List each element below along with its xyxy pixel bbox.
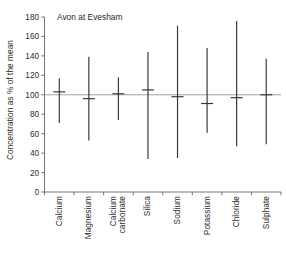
axis-group: [45, 17, 282, 195]
range-marker: [112, 77, 124, 120]
y-axis-tick-label: 180: [25, 13, 39, 22]
y-axis-tick-label: 120: [25, 71, 39, 80]
range-marker: [53, 78, 65, 123]
range-marker: [260, 59, 272, 145]
y-axis-tick-label: 20: [30, 169, 40, 178]
range-marker: [172, 26, 184, 158]
range-marker: [142, 52, 154, 159]
category-label-line: Sulphate: [262, 196, 271, 229]
data-series-group: [53, 21, 272, 159]
range-marker: [231, 21, 243, 146]
range-marker: [201, 48, 213, 133]
y-axis-tick-label: 60: [30, 130, 40, 139]
y-axis-tick-labels: 020406080100120140160180: [25, 13, 44, 197]
x-axis-category-label: Sulphate: [234, 196, 286, 254]
chart-container: Concentration as % of the mean Avon at E…: [0, 0, 286, 256]
range-marker: [83, 57, 95, 141]
y-axis-tick-label: 100: [25, 91, 39, 100]
y-axis-tick-label: 160: [25, 32, 39, 41]
y-axis-tick-label: 80: [30, 110, 40, 119]
y-axis-tick-label: 140: [25, 52, 39, 61]
y-axis-tick-label: 40: [30, 149, 40, 158]
